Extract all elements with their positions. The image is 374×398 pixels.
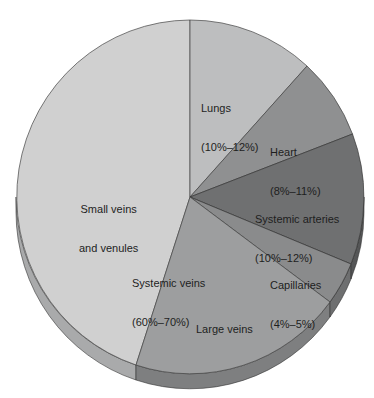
label-lungs-name: Lungs (201, 102, 258, 115)
label-large-veins: Large veins (196, 297, 253, 349)
label-systemic-veins: Systemic veins (60%–70%) (132, 251, 205, 342)
label-small-veins-name: Small veins (79, 203, 138, 216)
label-capillaries-range: (4%–5%) (270, 318, 321, 331)
label-large-veins-name: Large veins (196, 323, 253, 336)
label-capillaries: Capillaries (4%–5%) (270, 253, 321, 344)
label-systemic-veins-range: (60%–70%) (132, 316, 205, 329)
label-small-veins-name2: and venules (79, 242, 138, 255)
label-capillaries-name: Capillaries (270, 279, 321, 292)
label-lungs-range: (10%–12%) (201, 141, 258, 154)
label-heart-name: Heart (270, 146, 321, 159)
label-small-veins: Small veins and venules (79, 177, 138, 268)
label-lungs: Lungs (10%–12%) (201, 76, 258, 167)
label-arteries-name: Systemic arteries (255, 213, 339, 226)
label-systemic-veins-name: Systemic veins (132, 277, 205, 290)
